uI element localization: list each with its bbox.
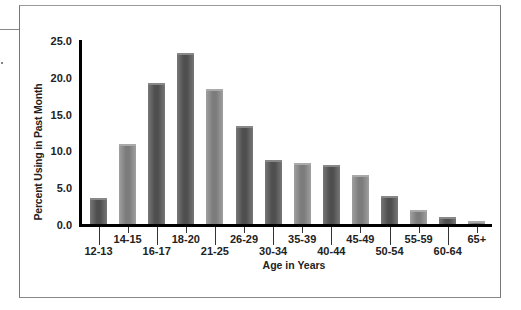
- bar-18-20: [177, 53, 194, 225]
- x-tick: [331, 227, 332, 245]
- x-tick-label: 55-59: [405, 233, 433, 245]
- page-edge-mark: [1, 62, 3, 64]
- bar-16-17: [148, 83, 165, 225]
- x-tick-label: 21-25: [201, 245, 229, 257]
- bar-45-49: [352, 175, 369, 225]
- x-tick: [157, 227, 158, 245]
- x-tick-label: 30-34: [259, 245, 287, 257]
- x-tick-label: 14-15: [114, 233, 142, 245]
- x-tick: [448, 227, 449, 245]
- x-tick-label: 35-39: [288, 233, 316, 245]
- y-tick-label: 25.0: [42, 35, 72, 47]
- y-tick-label: 5.0: [42, 182, 72, 194]
- x-tick: [215, 227, 216, 245]
- bar-55-59: [410, 210, 427, 225]
- bar-50-54: [381, 196, 398, 225]
- x-tick: [273, 227, 274, 245]
- x-tick-label: 16-17: [143, 245, 171, 257]
- x-tick-label: 18-20: [172, 233, 200, 245]
- x-tick-label: 60-64: [434, 245, 462, 257]
- x-tick-label: 65+: [467, 233, 486, 245]
- bar-30-34: [265, 160, 282, 225]
- y-tick-label: 15.0: [42, 109, 72, 121]
- bar-40-44: [323, 165, 340, 225]
- x-tick: [390, 227, 391, 245]
- bar-12-13: [90, 198, 107, 225]
- x-tick-label: 12-13: [84, 245, 112, 257]
- y-tick-label: 20.0: [42, 72, 72, 84]
- x-tick-label: 50-54: [375, 245, 403, 257]
- x-tick-label: 40-44: [317, 245, 345, 257]
- x-axis-line: [79, 224, 492, 227]
- y-tick-label: 0.0: [42, 219, 72, 231]
- x-tick-label: 26-29: [230, 233, 258, 245]
- y-axis-line: [79, 40, 82, 227]
- bar-21-25: [206, 89, 223, 225]
- bar-14-15: [119, 144, 136, 225]
- x-tick: [99, 227, 100, 245]
- y-tick-label: 10.0: [42, 145, 72, 157]
- x-tick-label: 45-49: [346, 233, 374, 245]
- page-edge-line: [0, 29, 19, 30]
- bar-35-39: [294, 163, 311, 225]
- x-axis-title: Age in Years: [263, 259, 326, 271]
- bar-26-29: [236, 126, 253, 225]
